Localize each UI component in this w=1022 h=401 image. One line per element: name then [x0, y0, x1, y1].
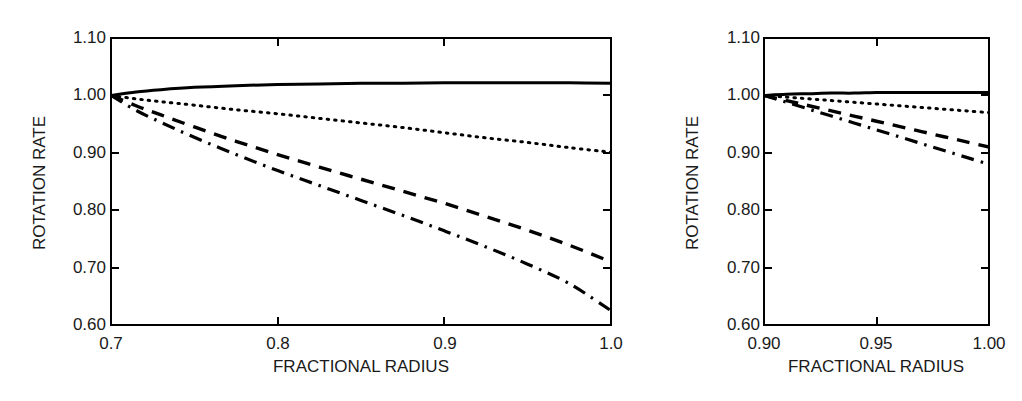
xtick-label: 0.8 [253, 334, 303, 354]
xtick-label: 1.00 [959, 334, 1019, 354]
xtick-label: 0.90 [734, 334, 794, 354]
ytick-label: 0.90 [698, 143, 760, 163]
ytick-label: 0.60 [44, 315, 106, 335]
xtick-label: 0.9 [420, 334, 470, 354]
ytick-label: 0.60 [698, 315, 760, 335]
ytick-label: 1.00 [698, 85, 760, 105]
ytick-label: 1.10 [44, 28, 106, 48]
ytick-label: 0.70 [44, 258, 106, 278]
ytick-label: 0.70 [698, 258, 760, 278]
xtick-label: 0.95 [846, 334, 906, 354]
yaxis-title: ROTATION RATE [30, 68, 50, 298]
chart-panel-right: 1.10 1.00 0.90 0.80 0.70 0.60 0.90 0.95 … [660, 0, 1022, 401]
xaxis-title: FRACTIONAL RADIUS [211, 357, 511, 377]
yaxis-title: ROTATION RATE [683, 68, 703, 298]
ytick-label: 1.10 [698, 28, 760, 48]
figure-root: 1.10 1.00 0.90 0.80 0.70 0.60 0.7 0.8 0.… [0, 0, 1022, 401]
xtick-label: 1.0 [586, 334, 636, 354]
xtick-label: 0.7 [86, 334, 136, 354]
ytick-label: 1.00 [44, 85, 106, 105]
ytick-label: 0.80 [698, 200, 760, 220]
ytick-label: 0.90 [44, 143, 106, 163]
chart-panel-left: 1.10 1.00 0.90 0.80 0.70 0.60 0.7 0.8 0.… [0, 0, 660, 401]
xaxis-title: FRACTIONAL RADIUS [726, 357, 1022, 377]
ytick-label: 0.80 [44, 200, 106, 220]
